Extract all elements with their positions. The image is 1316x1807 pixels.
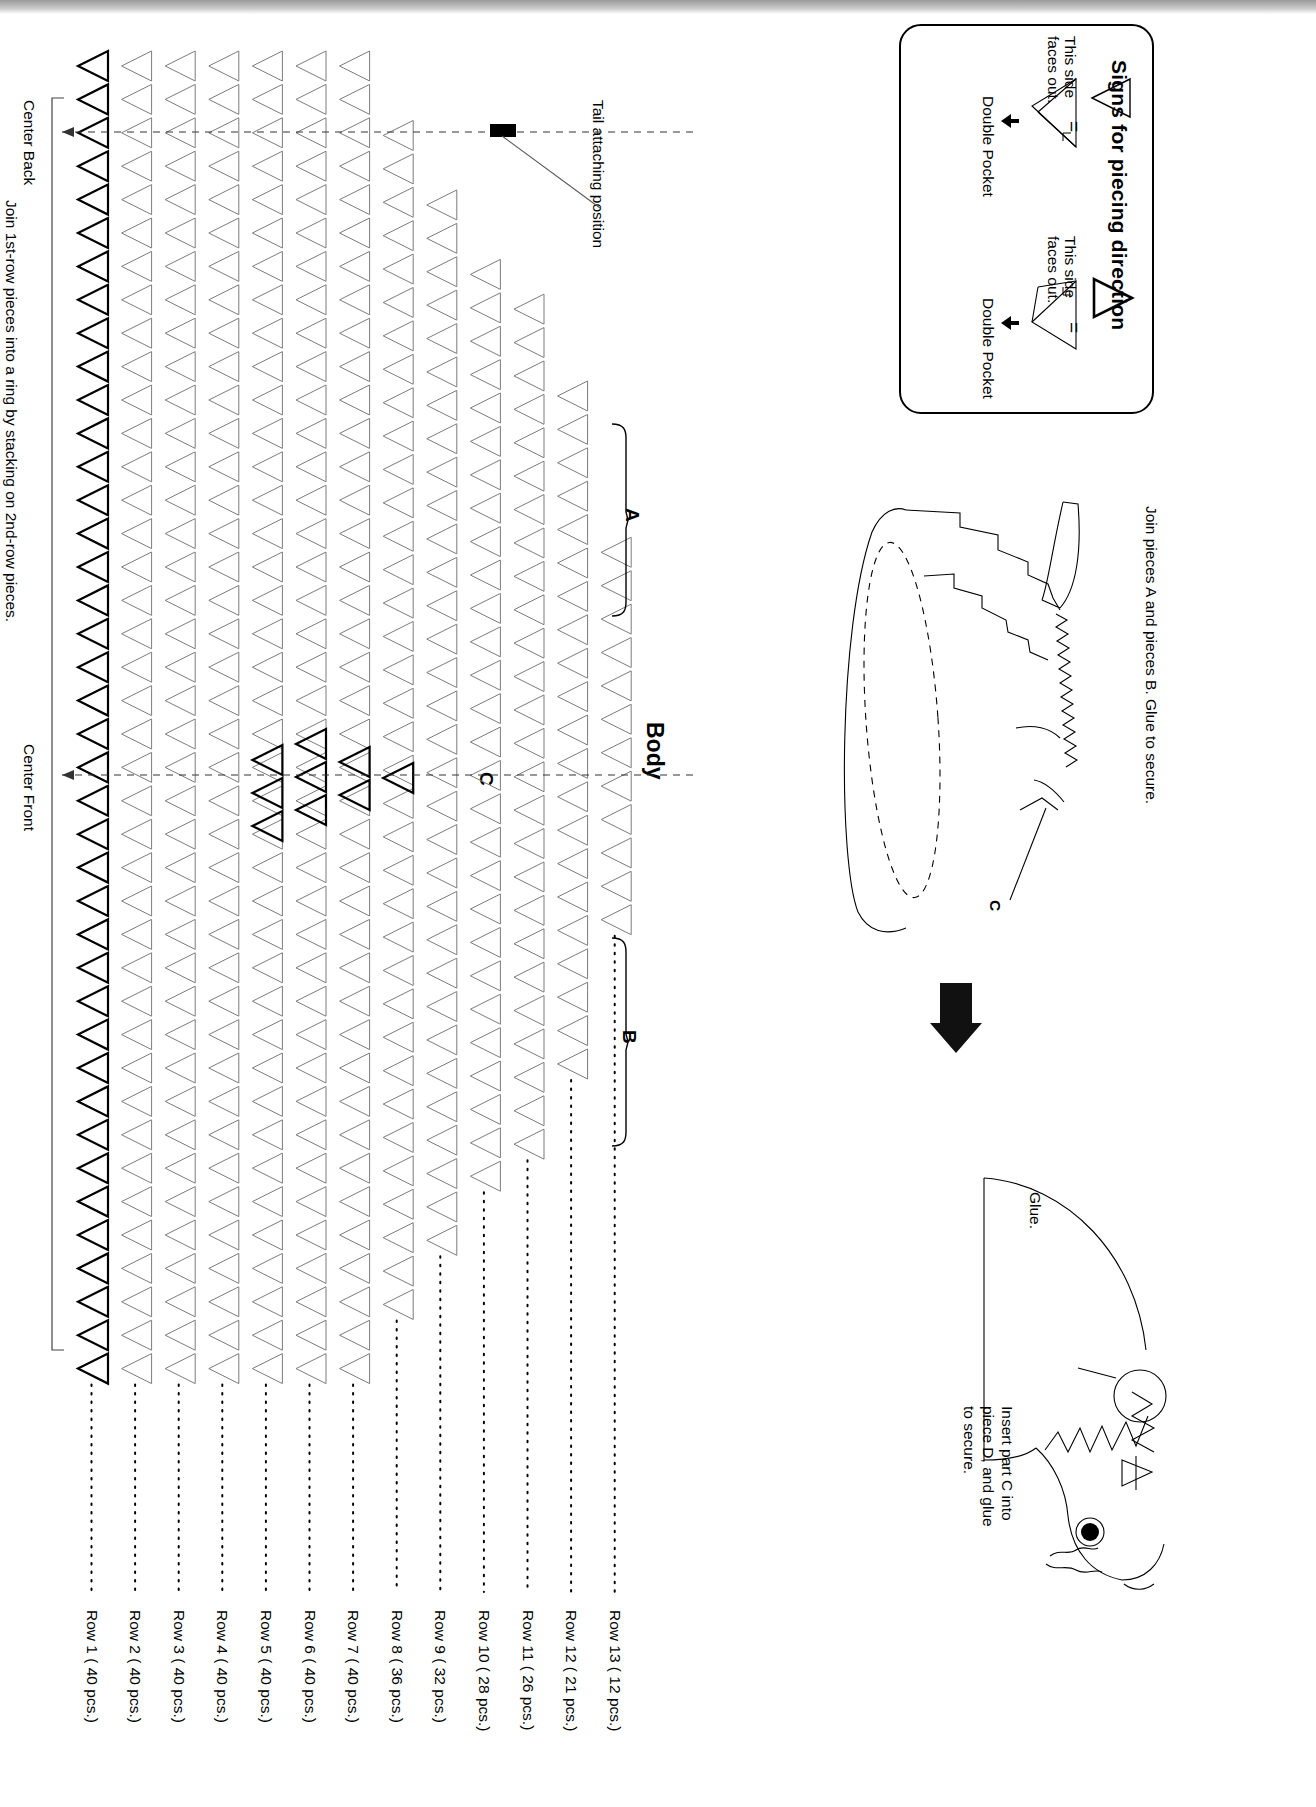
triangle-piece <box>252 686 282 716</box>
triangle-piece <box>122 318 152 348</box>
triangle-piece <box>340 118 370 148</box>
triangle-piece <box>78 1187 108 1217</box>
triangle-piece <box>427 624 457 654</box>
triangle-piece <box>296 452 326 482</box>
triangle-piece <box>122 118 152 148</box>
legend-entry-0-arrow-icon <box>1000 104 1020 138</box>
triangle-piece <box>252 1287 282 1317</box>
triangle-piece <box>252 352 282 382</box>
triangle-piece <box>252 919 282 949</box>
triangle-piece <box>122 519 152 549</box>
triangle-piece <box>383 722 413 752</box>
triangle-piece <box>165 1220 195 1250</box>
triangle-piece <box>340 780 370 810</box>
triangle-piece <box>383 855 413 885</box>
triangle-piece <box>122 1187 152 1217</box>
triangle-piece <box>383 1056 413 1086</box>
triangle-piece <box>558 1016 588 1046</box>
reference-arrow-icon <box>62 770 74 780</box>
triangle-piece <box>78 1086 108 1116</box>
triangle-piece <box>296 619 326 649</box>
triangle-piece <box>252 285 282 315</box>
triangle-piece <box>296 719 326 749</box>
triangle-piece <box>209 1220 239 1250</box>
triangle-piece <box>78 1120 108 1150</box>
triangle-piece <box>122 986 152 1016</box>
triangle-piece <box>209 218 239 248</box>
triangle-piece <box>427 257 457 287</box>
triangle-piece <box>383 588 413 618</box>
triangle-piece <box>209 619 239 649</box>
triangle-piece <box>165 485 195 515</box>
triangle-piece <box>340 1220 370 1250</box>
triangle-piece <box>78 51 108 81</box>
triangle-piece <box>252 1053 282 1083</box>
triangle-piece <box>252 452 282 482</box>
triangle-piece <box>296 485 326 515</box>
triangle-piece <box>122 51 152 81</box>
triangle-piece <box>340 719 370 749</box>
triangle-piece <box>165 986 195 1016</box>
triangle-piece <box>296 1187 326 1217</box>
triangle-piece <box>78 519 108 549</box>
triangle-piece <box>78 752 108 782</box>
triangle-piece <box>209 385 239 415</box>
triangle-piece <box>209 1086 239 1116</box>
triangle-piece <box>209 1287 239 1317</box>
row-label: Row 7 ( 40 pcs.) <box>344 1610 362 1723</box>
triangle-piece <box>558 381 588 411</box>
triangle-piece <box>514 1129 544 1159</box>
triangle-piece <box>252 552 282 582</box>
triangle-piece <box>296 285 326 315</box>
triangle-piece <box>470 259 500 289</box>
triangle-piece <box>78 251 108 281</box>
triangle-piece <box>209 719 239 749</box>
triangle-piece <box>427 290 457 320</box>
triangle-piece <box>252 485 282 515</box>
triangle-piece <box>122 1253 152 1283</box>
triangle-piece <box>296 1354 326 1384</box>
row-label: Row 8 ( 36 pcs.) <box>388 1610 406 1723</box>
triangle-piece <box>470 827 500 857</box>
triangle-piece <box>470 794 500 824</box>
triangle-piece <box>122 285 152 315</box>
triangle-piece <box>601 704 631 734</box>
triangle-piece <box>514 495 544 525</box>
triangle-piece <box>340 185 370 215</box>
triangle-piece <box>165 84 195 114</box>
triangle-piece <box>78 819 108 849</box>
row-label: Row 10 ( 28 pcs.) <box>475 1610 493 1731</box>
row-label: Row 12 ( 21 pcs.) <box>562 1610 580 1731</box>
triangle-piece <box>252 84 282 114</box>
step2-caption-line3: to secure. <box>960 1406 978 1474</box>
triangle-piece <box>209 1187 239 1217</box>
triangle-piece <box>252 1086 282 1116</box>
triangle-piece <box>296 795 326 825</box>
triangle-piece <box>514 728 544 758</box>
triangle-piece <box>514 628 544 658</box>
triangle-piece <box>209 1120 239 1150</box>
triangle-piece <box>383 621 413 651</box>
triangle-piece <box>165 1253 195 1283</box>
triangle-piece <box>514 428 544 458</box>
triangle-piece <box>165 752 195 782</box>
triangle-piece <box>296 919 326 949</box>
triangle-piece <box>514 695 544 725</box>
triangle-piece <box>252 318 282 348</box>
triangle-piece <box>383 321 413 351</box>
triangle-piece <box>340 1187 370 1217</box>
triangle-piece <box>122 919 152 949</box>
triangle-piece <box>165 185 195 215</box>
triangle-piece <box>165 318 195 348</box>
triangle-piece <box>340 285 370 315</box>
row-label: Row 1 ( 40 pcs.) <box>83 1610 101 1723</box>
triangle-piece <box>383 922 413 952</box>
triangle-piece <box>252 585 282 615</box>
triangle-piece <box>427 858 457 888</box>
triangle-piece <box>122 485 152 515</box>
triangle-piece <box>122 652 152 682</box>
triangle-grid <box>0 0 800 1807</box>
triangle-piece <box>209 251 239 281</box>
triangle-piece <box>122 151 152 181</box>
triangle-piece <box>383 354 413 384</box>
